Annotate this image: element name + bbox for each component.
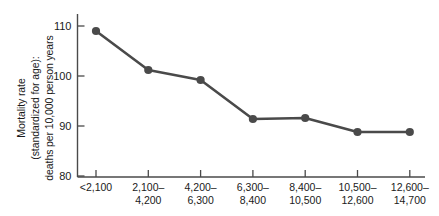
x-tick-label-6: 12,600–14,700 [391,181,429,206]
x-axis-tick-labels: <2,1002,100–4,2004,200–6,3006,300–8,4008… [80,181,429,206]
plot-area: 8090100110 <2,1002,100–4,2004,200–6,3006… [0,0,439,216]
series-markers [92,27,414,136]
data-point-2 [197,76,205,84]
x-tick-label-2: 4,200–6,300 [185,181,217,206]
data-point-1 [144,66,152,74]
x-tick-label-0: <2,100 [80,181,113,193]
x-tick-label-5: 10,500–12,600 [339,181,377,206]
x-tick-label-3: 6,300–8,400 [237,181,269,206]
data-point-0 [92,27,100,35]
data-point-5 [353,128,361,136]
data-point-4 [301,114,309,122]
y-tick-label-110: 110 [54,20,72,32]
data-point-3 [249,115,257,123]
y-tick-label-90: 90 [59,120,71,132]
y-axis-tick-labels: 8090100110 [53,20,71,182]
data-point-6 [406,128,414,136]
x-tick-label-4: 8,400–10,500 [289,181,321,206]
x-axis-ticks [96,170,410,177]
y-tick-label-80: 80 [59,170,71,182]
x-tick-label-1: 2,100–4,200 [132,181,164,206]
y-axis-ticks [78,26,85,176]
y-tick-label-100: 100 [53,70,71,82]
mortality-rate-line-chart: Mortality rate (standardized for age): d… [0,0,439,216]
